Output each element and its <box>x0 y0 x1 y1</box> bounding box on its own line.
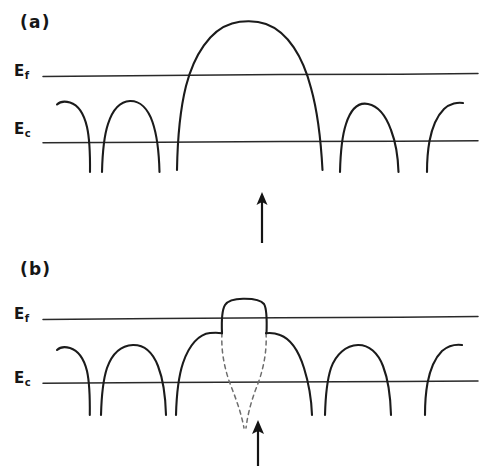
barrier-small-1-b <box>101 345 166 415</box>
conduction-band-line-a <box>43 141 478 143</box>
dashed-barrier-left-flank-b <box>222 333 244 428</box>
barrier-small-2-a <box>340 104 399 172</box>
plateau-clipped-barrier-top-b <box>222 299 267 333</box>
barrier-partial-right-b <box>425 345 462 415</box>
conduction-band-subscript-a: c <box>25 128 31 139</box>
current-direction-arrow-a <box>257 192 268 243</box>
barrier-clipped-left-shoulder-b <box>176 333 222 415</box>
conduction-band-label-b: Ec <box>14 371 30 386</box>
fermi-level-symbol-b: E <box>14 305 24 323</box>
barrier-small-2-b <box>325 345 391 415</box>
conduction-band-subscript-b: c <box>25 377 31 388</box>
barrier-large-central-a <box>177 21 323 170</box>
band-diagram-svg <box>0 0 486 471</box>
dashed-barrier-right-flank-b <box>246 333 266 428</box>
conduction-band-symbol-a: E <box>14 120 24 138</box>
barrier-partial-right-a <box>427 103 463 172</box>
conduction-band-symbol-b: E <box>14 369 24 387</box>
panel-label-a: (a) <box>20 12 51 32</box>
barrier-clipped-right-shoulder-b <box>266 333 312 415</box>
fermi-level-label-a: Ef <box>14 64 29 79</box>
fermi-level-line-a <box>43 74 478 77</box>
fermi-level-subscript-a: f <box>25 70 29 81</box>
panel-label-b: (b) <box>20 259 51 279</box>
barrier-partial-left-a <box>57 102 90 172</box>
fermi-level-symbol-a: E <box>14 62 24 80</box>
fermi-level-line-b <box>43 317 478 320</box>
figure-root: (a) Ef Ec (b) Ef Ec <box>0 0 486 471</box>
conduction-band-line-b <box>43 381 478 383</box>
current-direction-arrow-b <box>252 420 264 466</box>
fermi-level-subscript-b: f <box>25 313 29 324</box>
panel-a-group <box>43 21 478 243</box>
conduction-band-label-a: Ec <box>14 122 30 137</box>
panel-b-group <box>43 299 478 466</box>
barrier-small-1-a <box>102 101 160 172</box>
fermi-level-label-b: Ef <box>14 307 29 322</box>
barrier-partial-left-b <box>57 347 90 415</box>
